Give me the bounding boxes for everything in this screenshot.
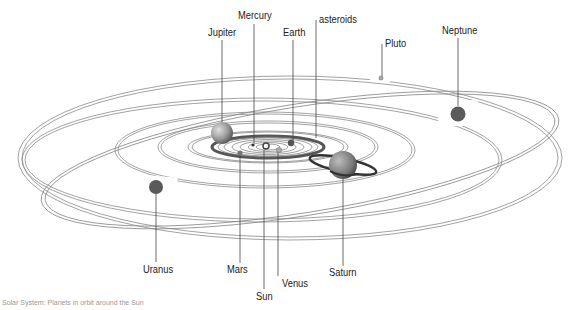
pluto-orbit [32, 64, 567, 257]
label-venus: Venus [282, 277, 308, 289]
uranus [149, 180, 163, 194]
pluto [379, 76, 383, 80]
label-neptune: Neptune [442, 24, 477, 36]
label-saturn: Saturn [329, 266, 357, 278]
jupiter [211, 122, 233, 144]
sun [263, 143, 269, 149]
label-uranus: Uranus [143, 263, 173, 275]
earth [288, 140, 294, 146]
label-sun: Sun [256, 290, 273, 302]
venus [276, 147, 281, 152]
label-pluto: Pluto [385, 37, 406, 49]
figure-caption: Solar System: Planets in orbit around th… [2, 299, 144, 306]
solar-system-diagram [0, 0, 572, 310]
label-jupiter: Jupiter [208, 26, 236, 38]
label-mars: Mars [227, 263, 248, 275]
mars [237, 150, 242, 155]
label-asteroids: asteroids [319, 13, 357, 25]
neptune [451, 107, 466, 122]
label-mercury: Mercury [238, 9, 272, 21]
label-earth: Earth [283, 26, 305, 38]
saturn [308, 151, 377, 179]
mercury [251, 143, 254, 146]
